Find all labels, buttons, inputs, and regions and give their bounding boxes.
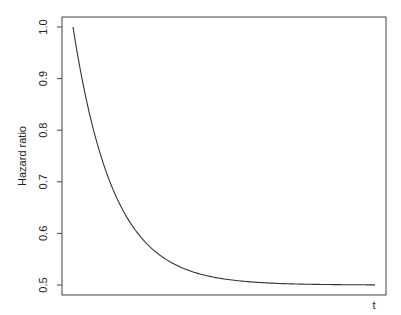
y-tick-label: 0.7 — [37, 174, 49, 189]
hazard-ratio-curve — [73, 27, 375, 285]
plot-box — [62, 17, 386, 295]
y-tick-label: 0.9 — [37, 71, 49, 86]
y-tick-label: 1.0 — [37, 19, 49, 34]
y-tick-label: 0.6 — [37, 226, 49, 241]
x-axis-label: t — [372, 299, 375, 311]
y-axis: 0.50.60.70.80.91.0 — [37, 19, 62, 292]
y-tick-label: 0.5 — [37, 277, 49, 292]
y-axis-label: Hazard ratio — [16, 126, 28, 186]
hazard-ratio-chart: 0.50.60.70.80.91.0 Hazard ratio t — [0, 0, 401, 315]
y-tick-label: 0.8 — [37, 123, 49, 138]
